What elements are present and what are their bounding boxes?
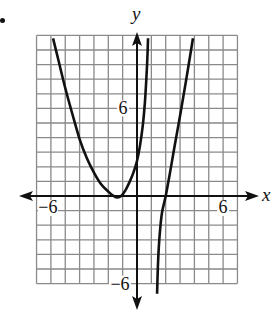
x-axis-label: x [261, 184, 271, 205]
y-axis-label: y [130, 3, 141, 24]
y-tick-label: 6 [119, 98, 128, 118]
x-tick-label: −6 [38, 197, 57, 217]
x-tick-label: 6 [219, 197, 228, 217]
curve-left-branch [53, 38, 148, 197]
function-graph: x y −666−6 [0, 0, 277, 317]
y-tick-label: −6 [110, 274, 129, 294]
curve-right-branch [157, 38, 193, 294]
